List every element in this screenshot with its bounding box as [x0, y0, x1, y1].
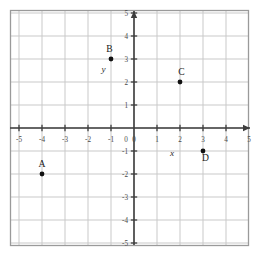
- x-tick-label: -3: [62, 136, 68, 144]
- y-tick-label: 1: [124, 102, 128, 110]
- y-tick-label: -3: [122, 194, 128, 202]
- y-tick-label: -4: [122, 217, 128, 225]
- coordinate-plane-figure: -5-4-3-2-10123450 54321-1-2-3-4-5 x y AB…: [0, 0, 261, 256]
- data-point-label: C: [178, 66, 184, 77]
- y-tick-label: 2: [124, 79, 128, 87]
- y-tick-label: -1: [122, 148, 128, 156]
- x-tick-label: -5: [16, 136, 22, 144]
- data-point-label: B: [106, 43, 112, 54]
- origin-label: 0: [124, 136, 128, 144]
- y-tick-label: -5: [122, 240, 128, 248]
- y-tick-label: 5: [124, 10, 128, 18]
- x-tick-label: 0: [132, 136, 136, 144]
- x-tick-label: 3: [201, 136, 205, 144]
- x-tick-label: -2: [85, 136, 91, 144]
- coordinate-grid-svg: -5-4-3-2-10123450 54321-1-2-3-4-5 x y AB…: [0, 0, 261, 256]
- data-point-label: D: [202, 152, 209, 163]
- x-tick-label: 1: [155, 136, 159, 144]
- data-point: [40, 172, 45, 177]
- data-point: [109, 57, 114, 62]
- data-point-label: A: [39, 158, 46, 169]
- x-tick-label: 4: [224, 136, 228, 144]
- y-tick-label: 3: [124, 56, 128, 64]
- x-tick-label: -1: [108, 136, 114, 144]
- x-tick-label: 2: [178, 136, 182, 144]
- x-tick-label: -4: [39, 136, 45, 144]
- y-tick-label: 4: [124, 33, 128, 41]
- y-tick-label: -2: [122, 171, 128, 179]
- x-tick-label: 5: [247, 136, 251, 144]
- data-point: [178, 80, 183, 85]
